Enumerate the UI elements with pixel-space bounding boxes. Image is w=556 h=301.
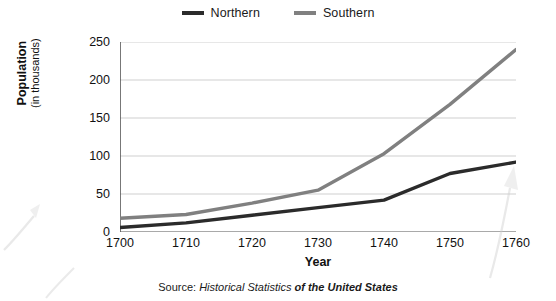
- plot-svg: [120, 42, 516, 232]
- source-caption: Source: Historical Statistics of the Uni…: [0, 281, 556, 293]
- x-axis-tick-label: 1710: [172, 236, 200, 250]
- x-axis-tick-label: 1760: [502, 236, 530, 250]
- legend-swatch-southern: [294, 11, 316, 15]
- scan-artifact-bottom-left: [44, 258, 84, 301]
- y-axis-tick-label: 50: [96, 187, 110, 201]
- source-prefix: Source:: [158, 281, 199, 293]
- legend-swatch-northern: [182, 11, 204, 15]
- x-axis-tick-label: 1700: [106, 236, 134, 250]
- x-axis-tick-label: 1720: [238, 236, 266, 250]
- legend-label-northern: Northern: [211, 6, 260, 20]
- x-axis-ticks: 1700171017201730174017501760: [120, 236, 516, 254]
- legend-item-northern: Northern: [182, 6, 260, 20]
- y-axis-tick-label: 150: [89, 111, 110, 125]
- legend-item-southern: Southern: [294, 6, 375, 20]
- chart-legend: Northern Southern: [0, 6, 556, 20]
- source-title-italic: Historical Statistics: [199, 281, 291, 293]
- plot-area: [120, 42, 516, 232]
- x-axis-tick-label: 1730: [304, 236, 332, 250]
- y-axis-tick-label: 200: [89, 73, 110, 87]
- line-chart: Northern Southern Population (in thousan…: [0, 0, 556, 301]
- source-title-bold: of the United States: [291, 281, 397, 293]
- x-axis-title: Year: [120, 255, 516, 269]
- legend-label-southern: Southern: [323, 6, 375, 20]
- y-axis-tick-label: 250: [89, 35, 110, 49]
- x-axis-tick-label: 1750: [436, 236, 464, 250]
- x-axis-tick-label: 1740: [370, 236, 398, 250]
- series-line-northern: [120, 162, 516, 227]
- y-axis-ticks: 050100150200250: [0, 42, 118, 232]
- series-line-southern: [120, 50, 516, 219]
- y-axis-tick-label: 100: [89, 149, 110, 163]
